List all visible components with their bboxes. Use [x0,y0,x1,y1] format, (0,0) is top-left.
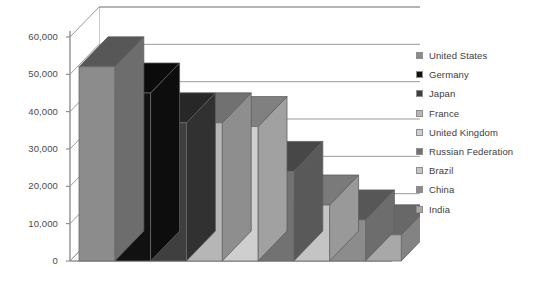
chart-legend: United StatesGermanyJapanFranceUnited Ki… [416,46,534,219]
legend-item[interactable]: India [416,200,534,219]
bar-front-face[interactable] [79,67,115,261]
legend-item[interactable]: Brazil [416,161,534,180]
chart-svg [0,0,420,289]
y-axis-tick-label: 40,000 [6,107,58,117]
y-axis-tick-label: 30,000 [6,144,58,154]
y-axis-tick-label: 20,000 [6,181,58,191]
legend-item[interactable]: United Kingdom [416,123,534,142]
y-axis-tick-label: 10,000 [6,219,58,229]
legend-item-label: United States [429,50,487,61]
bar-side-face [115,37,144,261]
legend-item-label: France [429,108,459,119]
legend-swatch-icon [416,52,423,59]
legend-item[interactable]: Russian Federation [416,142,534,161]
y-axis-tick-label: 0 [6,256,58,266]
chart-root: 60,00050,00040,00030,00020,00010,0000 Un… [0,0,534,289]
bar-group [79,37,144,261]
legend-item-label: Russian Federation [429,146,513,157]
legend-swatch-icon [416,148,423,155]
legend-item-label: Brazil [429,165,453,176]
legend-swatch-icon [416,90,423,97]
legend-item-label: Japan [429,88,455,99]
legend-item-label: India [429,204,450,215]
bar-side-face [151,63,180,261]
legend-item-label: Germany [429,69,469,80]
y-axis-tick-label: 50,000 [6,69,58,79]
legend-item[interactable]: Japan [416,84,534,103]
legend-item[interactable]: Germany [416,65,534,84]
legend-item-label: United Kingdom [429,127,498,138]
legend-swatch-icon [416,167,423,174]
legend-item[interactable]: France [416,104,534,123]
legend-swatch-icon [416,110,423,117]
legend-item-label: China [429,184,454,195]
legend-item[interactable]: China [416,180,534,199]
plot-area: 60,00050,00040,00030,00020,00010,0000 [0,0,420,289]
legend-item[interactable]: United States [416,46,534,65]
y-axis-tick-label: 60,000 [6,32,58,42]
legend-swatch-icon [416,129,423,136]
legend-swatch-icon [416,186,423,193]
legend-swatch-icon [416,206,423,213]
legend-swatch-icon [416,71,423,78]
